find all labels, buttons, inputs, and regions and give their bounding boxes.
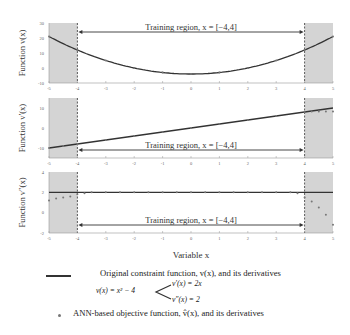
x-axis-label: Variable x	[173, 250, 210, 260]
svg-text:-5: -5	[47, 86, 51, 91]
svg-text:1: 1	[218, 161, 220, 166]
extrapolation-region	[305, 98, 333, 158]
svg-text:0: 0	[190, 236, 193, 241]
svg-text:-4: -4	[76, 161, 80, 166]
equation-main: v(x) = x² − 4	[96, 286, 135, 295]
training-region-label: Training region, x = [−4,4]	[145, 140, 237, 150]
svg-text:4: 4	[303, 86, 306, 91]
training-region-label: Training region, x = [−4,4]	[145, 215, 237, 225]
svg-text:0: 0	[190, 86, 193, 91]
legend-marker-swatch	[58, 314, 61, 317]
svg-text:0: 0	[42, 126, 45, 131]
svg-text:-5: -5	[47, 161, 51, 166]
svg-text:1: 1	[218, 236, 220, 241]
svg-text:-4: -4	[76, 236, 80, 241]
svg-text:-4: -4	[76, 86, 80, 91]
chart-area: -5-4-3-2-1012345-100102030Function v(x)T…	[0, 0, 350, 262]
svg-text:2: 2	[247, 86, 249, 91]
svg-text:1: 1	[218, 86, 220, 91]
svg-text:4: 4	[303, 161, 306, 166]
svg-text:10: 10	[40, 106, 45, 111]
subplot-1: -5-4-3-2-1012345-100102030Function v(x)T…	[17, 21, 335, 92]
svg-text:4: 4	[42, 170, 45, 175]
svg-text:0: 0	[42, 66, 45, 71]
svg-text:-5: -5	[47, 236, 51, 241]
svg-text:-2: -2	[132, 86, 136, 91]
svg-text:-10: -10	[38, 81, 45, 86]
svg-text:3: 3	[275, 236, 278, 241]
svg-text:-3: -3	[104, 236, 108, 241]
legend-marker-label: ANN-based objective function, v̂(x), and…	[73, 308, 264, 318]
svg-text:20: 20	[40, 36, 45, 41]
extrapolation-region	[49, 172, 77, 233]
subplot-3: -5-4-3-2-1012345-2024Function v″(x)Train…	[17, 170, 335, 242]
svg-text:0: 0	[190, 161, 193, 166]
svg-text:-2: -2	[132, 236, 136, 241]
svg-text:2: 2	[247, 236, 249, 241]
branch-arrows-icon	[153, 282, 173, 302]
svg-text:2: 2	[247, 161, 249, 166]
svg-text:Function v(x): Function v(x)	[17, 30, 27, 77]
equation-derivative-2: v″(x) = 2	[172, 295, 200, 304]
svg-text:3: 3	[275, 86, 278, 91]
svg-text:-1: -1	[161, 86, 165, 91]
extrapolation-region	[305, 172, 333, 233]
svg-text:-3: -3	[104, 161, 108, 166]
svg-text:5: 5	[332, 161, 335, 166]
svg-text:10: 10	[40, 51, 45, 56]
subplot-2: -5-4-3-2-1012345-10010Function v′(x)Trai…	[17, 98, 335, 166]
svg-text:-1: -1	[161, 236, 165, 241]
svg-text:Function v′(x): Function v′(x)	[17, 104, 27, 153]
extrapolation-region	[49, 23, 77, 83]
svg-text:5: 5	[332, 86, 335, 91]
extrapolation-region	[49, 98, 77, 158]
svg-text:5: 5	[332, 236, 335, 241]
svg-text:3: 3	[275, 161, 278, 166]
legend-line-swatch	[46, 275, 71, 277]
svg-text:2: 2	[42, 190, 44, 195]
svg-text:-2: -2	[40, 231, 44, 236]
extrapolation-region	[305, 23, 333, 83]
svg-text:-3: -3	[104, 86, 108, 91]
svg-text:-2: -2	[132, 161, 136, 166]
svg-text:-10: -10	[38, 146, 45, 151]
svg-text:0: 0	[42, 210, 45, 215]
svg-text:-1: -1	[161, 161, 165, 166]
svg-text:4: 4	[303, 236, 306, 241]
svg-text:Function v″(x): Function v″(x)	[17, 177, 27, 227]
equation-derivative-1: v′(x) = 2x	[172, 279, 202, 288]
legend-line-label: Original constraint function, v(x), and …	[100, 268, 281, 278]
training-region-label: Training region, x = [−4,4]	[145, 22, 237, 32]
svg-text:30: 30	[40, 21, 45, 26]
